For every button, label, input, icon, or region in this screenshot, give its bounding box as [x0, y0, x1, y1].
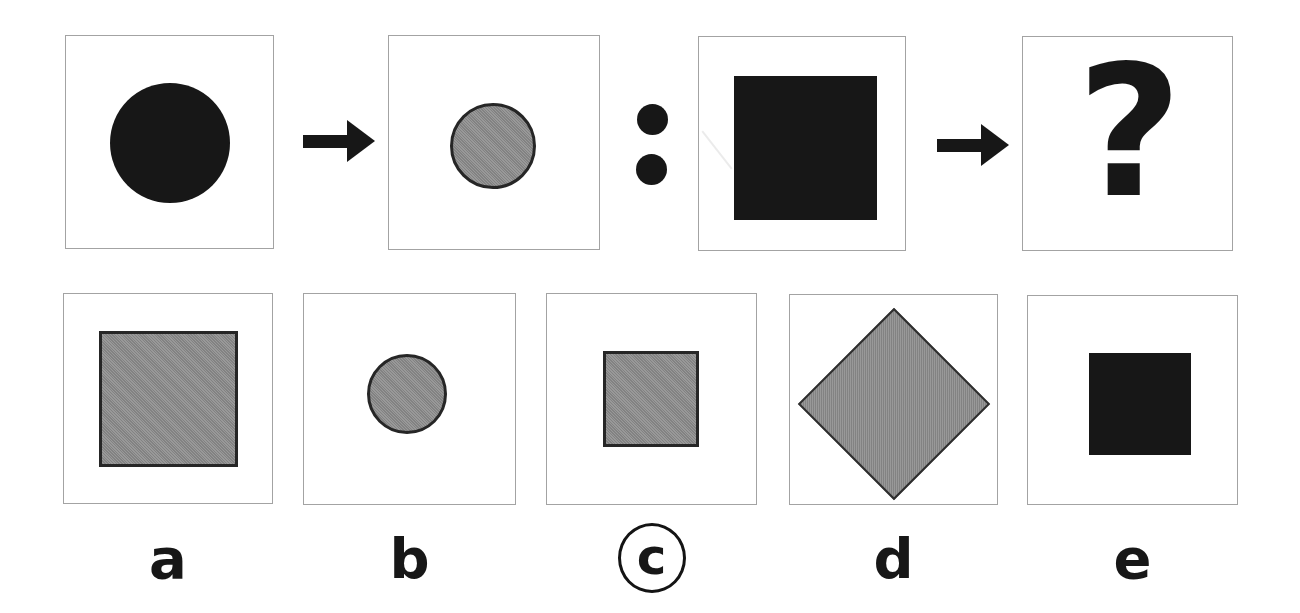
option-b-letter: b: [389, 526, 429, 591]
puzzle-canvas: ? a b c d e: [0, 0, 1300, 613]
small-gray-square: [603, 351, 699, 447]
option-e-label[interactable]: e: [1027, 521, 1238, 595]
large-black-circle: [110, 83, 230, 203]
scan-artifact-line: [701, 130, 732, 169]
option-a-frame[interactable]: [63, 293, 273, 504]
option-d-label[interactable]: d: [789, 521, 998, 595]
analogy-premise-left-frame: [65, 35, 274, 249]
large-gray-square: [99, 331, 238, 467]
colon-separator-icon: [637, 104, 668, 135]
analogy-unknown-frame: ?: [1022, 36, 1233, 251]
small-black-square: [1089, 353, 1191, 455]
large-black-square: [734, 76, 877, 220]
option-e-letter: e: [1114, 526, 1152, 591]
option-c-frame[interactable]: [546, 293, 757, 505]
arrow-right-icon: [937, 122, 1010, 168]
option-b-frame[interactable]: [303, 293, 516, 505]
analogy-result-left-frame: [388, 35, 600, 250]
analogy-premise-right-frame: [698, 36, 906, 251]
colon-separator-icon: [636, 154, 667, 185]
option-c-label[interactable]: c: [546, 521, 757, 595]
option-c-letter: c: [637, 528, 667, 586]
option-a-letter: a: [149, 526, 187, 591]
option-e-frame[interactable]: [1027, 295, 1238, 505]
option-d-frame[interactable]: [789, 294, 998, 505]
large-gray-diamond: [798, 308, 990, 500]
option-a-label[interactable]: a: [63, 521, 273, 595]
small-gray-circle: [367, 354, 447, 434]
option-b-label[interactable]: b: [303, 521, 516, 595]
selected-answer-ring: c: [618, 523, 686, 593]
arrow-right-icon: [303, 118, 376, 164]
question-mark: ?: [1023, 25, 1232, 238]
option-d-letter: d: [873, 526, 913, 591]
small-gray-circle: [450, 103, 536, 189]
